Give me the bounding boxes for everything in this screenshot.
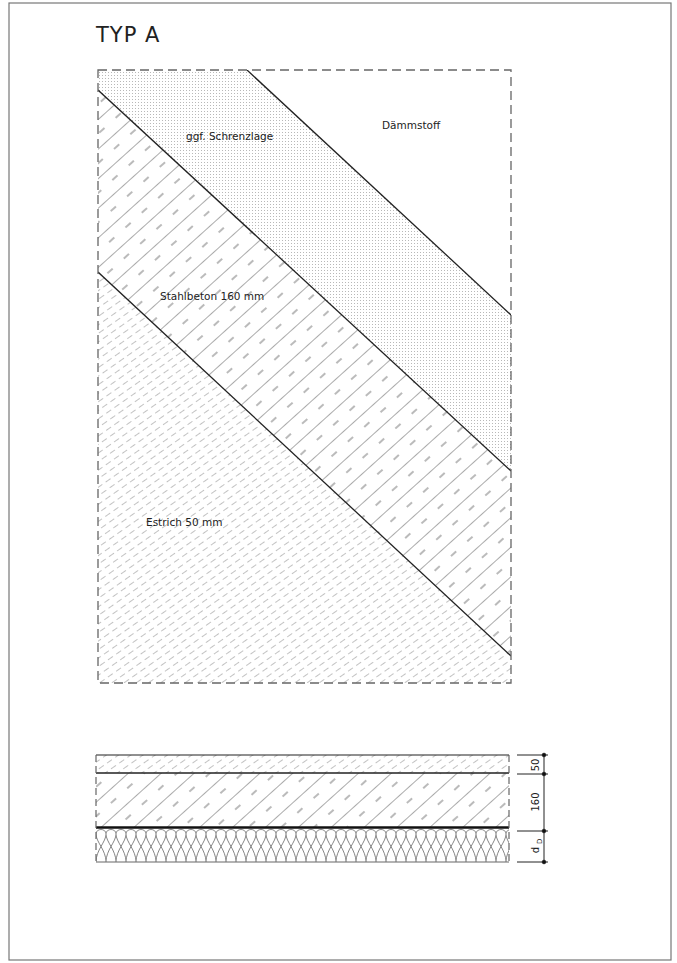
label-daemmstoff: Dämmstoff — [382, 119, 441, 131]
svg-text:d: d — [530, 847, 541, 853]
dim-estrich: 50 — [530, 759, 541, 772]
svg-text:D: D — [536, 839, 544, 844]
drawing-sheet: TYP A Dämmstoff ggf. Schrenzlage Stahlbe… — [0, 0, 677, 963]
section-estrich-layer — [96, 755, 509, 773]
section-view: 50 160 d D — [96, 753, 548, 864]
section-insulation-layer — [96, 828, 509, 862]
plan-view — [98, 70, 511, 683]
section-stahlbeton-layer — [96, 773, 509, 827]
drawing-title: TYP A — [95, 23, 160, 47]
dim-daemmung: d D — [530, 839, 544, 854]
label-estrich: Estrich 50 mm — [146, 516, 222, 528]
label-stahlbeton: Stahlbeton 160 mm — [160, 290, 264, 302]
dim-stahlbeton: 160 — [530, 792, 541, 811]
label-schrenzlage: ggf. Schrenzlage — [186, 130, 273, 142]
